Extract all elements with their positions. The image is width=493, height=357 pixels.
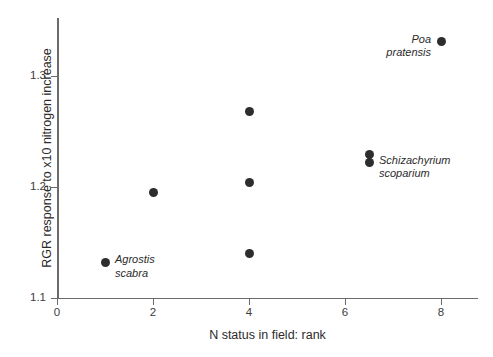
x-tick-8 [441, 298, 442, 305]
x-tick-0 [57, 298, 58, 305]
x-axis-line [57, 298, 478, 300]
data-point [365, 158, 374, 167]
point-label: Schizachyrium scoparium [379, 154, 451, 181]
x-tick-label-4: 4 [234, 306, 264, 318]
x-tick-label-0: 0 [42, 306, 72, 318]
x-tick-2 [153, 298, 154, 305]
x-axis-title: N status in field: rank [57, 328, 478, 342]
x-tick-label-8: 8 [426, 306, 456, 318]
scatter-plot-figure: 1.3 1.2 1.1 0 2 4 6 8 N status in field:… [0, 0, 493, 357]
data-point [245, 178, 254, 187]
data-point [437, 37, 446, 46]
x-tick-label-6: 6 [330, 306, 360, 318]
x-tick-label-2: 2 [138, 306, 168, 318]
data-point [149, 188, 158, 197]
point-label: Poa pratensis [386, 33, 431, 60]
data-point [245, 107, 254, 116]
data-point [101, 258, 110, 267]
x-tick-6 [345, 298, 346, 305]
y-axis-line [57, 18, 59, 299]
data-point [245, 249, 254, 258]
x-tick-4 [249, 298, 250, 305]
y-axis-title: RGR response to x10 nitrogen increase [40, 18, 54, 298]
point-label: Agrostis scabra [115, 253, 155, 280]
